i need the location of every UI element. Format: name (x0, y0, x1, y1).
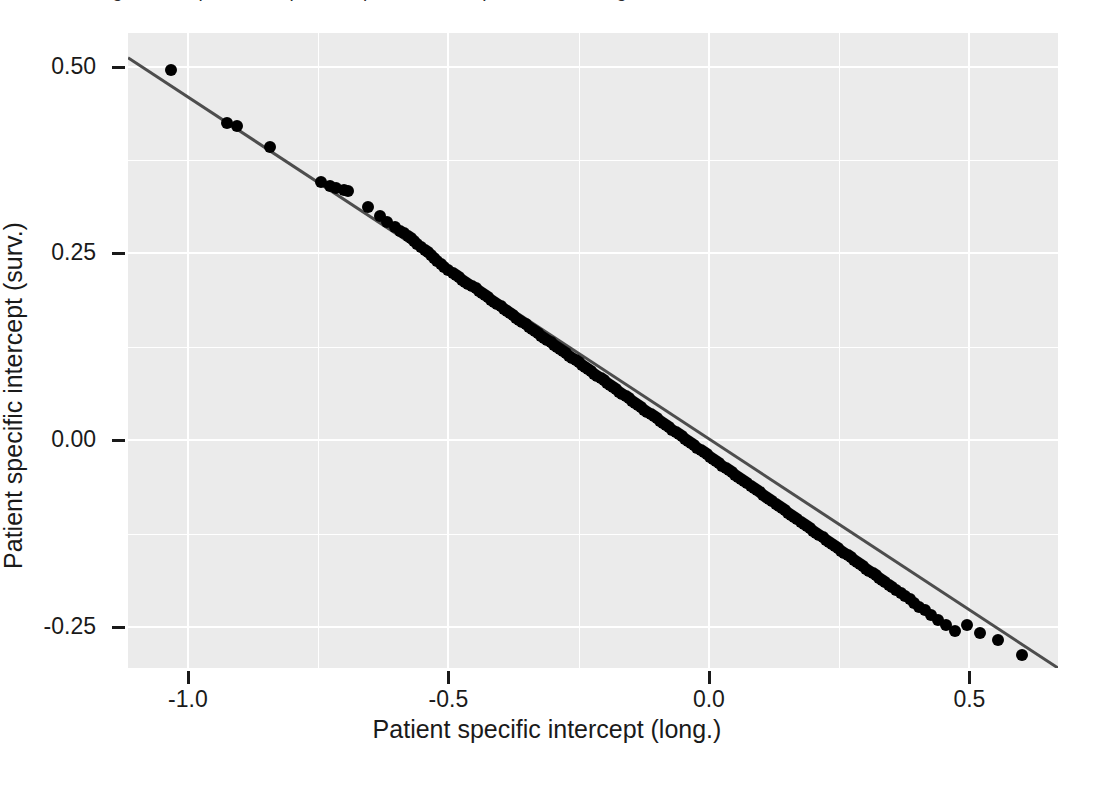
y-tick-label: -0.25 (44, 615, 96, 638)
y-axis-title: Patient specific intercept (surv.) (0, 0, 40, 791)
y-tick-mark (112, 626, 125, 629)
x-tick-mark (187, 671, 190, 684)
scatter-point (264, 141, 276, 153)
y-tick-label: 0.00 (51, 428, 96, 451)
x-tick-mark (708, 671, 711, 684)
x-tick-label: 0.0 (693, 688, 725, 711)
y-tick-mark (112, 252, 125, 255)
x-tick-label: 0.5 (953, 688, 985, 711)
scatter-point (961, 619, 973, 631)
x-tick-label: -1.0 (168, 688, 208, 711)
caption-bleed: Figure: comparison of patient specific i… (0, 0, 1094, 10)
scatter-points (128, 33, 1058, 668)
scatter-point (362, 201, 374, 213)
y-tick-mark (112, 66, 125, 69)
x-axis-title: Patient specific intercept (long.) (0, 716, 1094, 744)
y-tick-label: 0.50 (51, 55, 96, 78)
caption-bleed-text: Figure: comparison of patient specific i… (96, 0, 897, 2)
scatter-point (342, 185, 354, 197)
scatter-point (165, 64, 177, 76)
x-tick-mark (447, 671, 450, 684)
x-tick-mark (968, 671, 971, 684)
y-axis-title-text: Patient specific intercept (surv.) (0, 0, 28, 791)
scatter-point (1016, 649, 1028, 661)
scatter-point (231, 120, 243, 132)
figure-container: Figure: comparison of patient specific i… (0, 0, 1094, 791)
scatter-point (974, 627, 986, 639)
plot-panel (128, 33, 1058, 668)
scatter-point (949, 625, 961, 637)
scatter-point (992, 634, 1004, 646)
x-tick-label: -0.5 (429, 688, 469, 711)
y-tick-mark (112, 439, 125, 442)
y-tick-label: 0.25 (51, 241, 96, 264)
